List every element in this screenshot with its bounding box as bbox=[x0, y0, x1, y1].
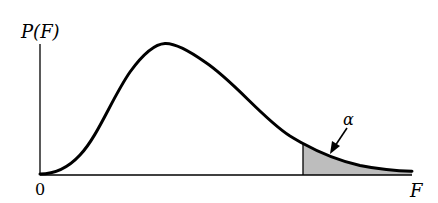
alpha-arrow bbox=[330, 128, 347, 154]
origin-label: 0 bbox=[35, 180, 45, 199]
x-axis-label: F bbox=[409, 180, 424, 201]
density-curve bbox=[40, 43, 412, 174]
y-axis-label: P(F) bbox=[20, 21, 60, 42]
alpha-label: α bbox=[343, 110, 354, 129]
f-distribution-diagram: P(F) 0 F α bbox=[0, 0, 438, 203]
